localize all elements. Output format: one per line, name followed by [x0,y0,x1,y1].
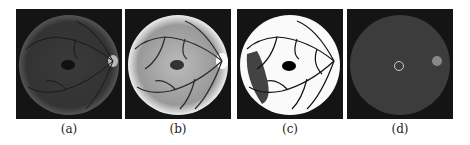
panel-b-enhanced-fundus [125,9,231,119]
fundus-image-c [237,9,343,119]
fundus-image-b [125,9,231,119]
panel-c-binarized-vessels [237,9,343,119]
panel-a-original-fundus [16,9,122,119]
caption-c: (c) [237,122,343,136]
caption-a: (a) [16,122,122,136]
panel-d-fovea-detection [347,9,453,119]
caption-d: (d) [347,122,453,136]
fundus-image-a [16,9,122,119]
fundus-image-d [347,9,453,119]
caption-b: (b) [125,122,231,136]
